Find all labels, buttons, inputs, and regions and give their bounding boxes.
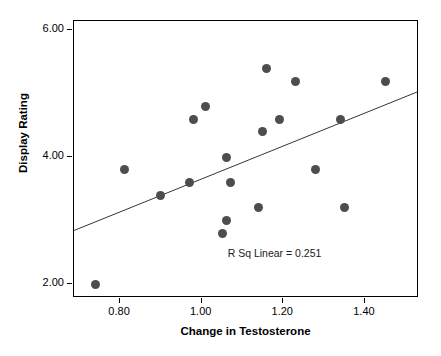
data-point xyxy=(381,77,390,86)
x-axis-tick-label: 0.80 xyxy=(89,305,149,317)
y-axis-title: Display Rating xyxy=(17,73,29,193)
plot-frame: R Sq Linear = 0.251 xyxy=(73,20,418,297)
data-point xyxy=(291,77,300,86)
y-axis-tick xyxy=(67,283,72,284)
x-axis-title: Change in Testosterone xyxy=(73,325,418,337)
data-point xyxy=(275,115,284,124)
data-point xyxy=(91,280,100,289)
r-squared-annotation: R Sq Linear = 0.251 xyxy=(228,247,322,259)
y-axis-tick xyxy=(67,156,72,157)
x-axis-tick xyxy=(282,298,283,303)
x-axis-tick xyxy=(119,298,120,303)
x-axis-tick-label: 1.00 xyxy=(171,305,231,317)
data-point xyxy=(185,178,194,187)
y-axis-tick-label: 4.00 xyxy=(18,150,64,161)
y-axis-tick-label: 2.00 xyxy=(18,277,64,288)
scatter-plot-figure: Display Rating 2.004.006.00 0.801.001.20… xyxy=(0,0,441,356)
data-point xyxy=(336,115,345,124)
y-axis-tick xyxy=(67,29,72,30)
data-point xyxy=(226,178,235,187)
y-axis-tick-label: 6.00 xyxy=(18,23,64,34)
data-point xyxy=(222,216,231,225)
data-point xyxy=(189,115,198,124)
x-axis-tick-label: 1.20 xyxy=(252,305,312,317)
x-axis-tick xyxy=(364,298,365,303)
x-axis-tick xyxy=(201,298,202,303)
data-point xyxy=(222,153,231,162)
x-axis-tick-label: 1.40 xyxy=(334,305,394,317)
data-point xyxy=(218,229,227,238)
data-point xyxy=(120,165,129,174)
